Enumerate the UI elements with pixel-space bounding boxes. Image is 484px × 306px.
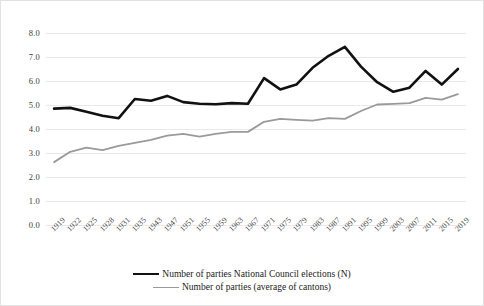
y-axis-tick-label: 2.0 — [29, 172, 40, 182]
chart-legend: Number of parties National Council elect… — [1, 269, 483, 292]
y-axis-tick-label: 0.0 — [29, 220, 40, 230]
series-line — [54, 47, 458, 118]
plot-area — [46, 17, 466, 225]
legend-item: Number of parties National Council elect… — [133, 269, 350, 279]
y-axis-tick-label: 3.0 — [29, 148, 40, 158]
y-axis-tick-label: 6.0 — [29, 76, 40, 86]
legend-label: Number of parties (average of cantons) — [182, 282, 331, 292]
y-axis-tick-label: 4.0 — [29, 124, 40, 134]
legend-label: Number of parties National Council elect… — [162, 269, 350, 279]
y-axis-tick-label: 8.0 — [29, 28, 40, 38]
series-lines — [46, 17, 466, 225]
chart-figure: 8.07.06.05.04.03.02.01.00.0 191919221925… — [0, 0, 484, 306]
legend-item: Number of parties (average of cantons) — [153, 282, 331, 292]
legend-line-icon — [153, 287, 179, 288]
legend-line-icon — [133, 273, 159, 275]
y-axis-tick-label: 7.0 — [29, 52, 40, 62]
y-axis-tick-label: 5.0 — [29, 100, 40, 110]
y-axis: 8.07.06.05.04.03.02.01.00.0 — [1, 1, 46, 225]
x-axis: 1919192219251928193119351943194719511955… — [46, 227, 466, 273]
series-line — [54, 94, 458, 162]
y-axis-tick-label: 1.0 — [29, 196, 40, 206]
